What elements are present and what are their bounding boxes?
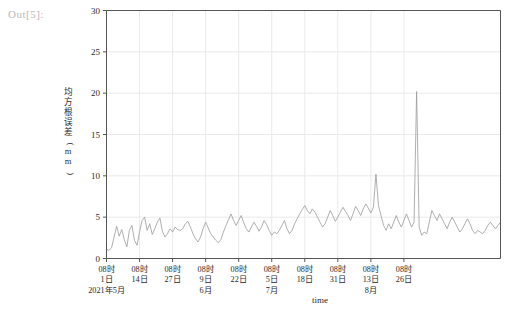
y-tick-label: 25 bbox=[91, 47, 101, 57]
x-tick-label: 5日 bbox=[266, 275, 278, 284]
x-tick-label: 26日 bbox=[396, 275, 412, 284]
x-tick-label: 08时 bbox=[330, 264, 346, 274]
x-tick-label: 08时 bbox=[297, 264, 313, 274]
x-tick-label: 7月 bbox=[266, 286, 278, 295]
y-axis-title: 均方根误差(mm) bbox=[64, 86, 77, 175]
x-tick-label: 08时 bbox=[198, 264, 214, 274]
y-axis-title-char: ) bbox=[66, 172, 76, 175]
y-tick-label: 0 bbox=[96, 254, 101, 264]
y-axis-title-char: 误 bbox=[64, 117, 73, 127]
y-axis-title-char: m bbox=[65, 146, 72, 156]
y-tick-label: 30 bbox=[91, 6, 101, 16]
x-tick-label: 13日 bbox=[363, 275, 379, 284]
y-axis-title-char: m bbox=[65, 156, 72, 166]
x-tick-label: 27日 bbox=[164, 275, 180, 284]
x-axis-title: time bbox=[312, 295, 328, 305]
y-axis-title-char: 方 bbox=[64, 96, 73, 107]
chart-series-layer bbox=[107, 92, 501, 251]
x-tick-label: 14日 bbox=[131, 275, 147, 284]
y-tick-label: 5 bbox=[96, 212, 101, 222]
series-line-rmse bbox=[107, 92, 501, 251]
x-tick-label: 31日 bbox=[330, 275, 346, 284]
x-tick-label: 8月 bbox=[365, 286, 377, 295]
y-axis-ticks: 051015202530 bbox=[91, 6, 107, 264]
y-tick-label: 15 bbox=[91, 130, 101, 140]
rmse-time-series-chart: 051015202530 08时1日2021年5月08时14日08时27日08时… bbox=[0, 0, 516, 313]
chart-figure: 051015202530 08时1日2021年5月08时14日08时27日08时… bbox=[0, 0, 516, 313]
x-tick-label: 08时 bbox=[231, 264, 247, 274]
x-tick-label: 08时 bbox=[164, 264, 180, 274]
y-tick-label: 20 bbox=[91, 88, 101, 98]
y-axis-title-char: 差 bbox=[64, 126, 73, 137]
chart-gridlines bbox=[107, 11, 501, 259]
x-tick-label: 08时 bbox=[131, 264, 147, 274]
x-tick-label: 9日 bbox=[200, 275, 212, 284]
x-tick-label: 2021年5月 bbox=[88, 285, 124, 295]
x-tick-label: 08时 bbox=[363, 264, 379, 274]
x-tick-label: 1日 bbox=[100, 275, 112, 284]
x-tick-label: 22日 bbox=[231, 275, 247, 284]
y-axis-title-char: 根 bbox=[64, 106, 73, 117]
y-tick-label: 10 bbox=[91, 171, 101, 181]
y-axis-title-char: 均 bbox=[64, 86, 73, 97]
x-tick-label: 18日 bbox=[297, 275, 313, 284]
x-axis-ticks: 08时1日2021年5月08时14日08时27日08时9日6月08时22日08时… bbox=[88, 259, 412, 295]
x-tick-label: 08时 bbox=[98, 264, 114, 274]
x-tick-label: 08时 bbox=[396, 264, 412, 274]
x-tick-label: 08时 bbox=[264, 264, 280, 274]
x-tick-label: 6月 bbox=[200, 286, 212, 295]
